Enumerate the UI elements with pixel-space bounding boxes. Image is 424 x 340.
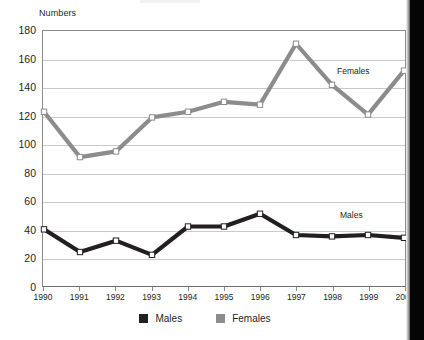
- x-tick: [152, 287, 153, 291]
- x-tick: [188, 287, 189, 291]
- x-tick: [369, 287, 370, 291]
- y-tick-label: 180: [4, 24, 36, 36]
- chart-canvas: Numbers 180160140120100806040200 1990199…: [0, 0, 424, 340]
- y-tick-label: 0: [4, 281, 36, 293]
- data-point-marker: [113, 149, 118, 154]
- data-point-marker: [365, 232, 370, 237]
- data-point-marker: [257, 102, 262, 107]
- x-tick: [260, 287, 261, 291]
- data-point-marker: [77, 249, 82, 254]
- x-tick: [79, 287, 80, 291]
- data-point-marker: [41, 227, 46, 232]
- page-gutter: [410, 0, 424, 340]
- legend-label: Males: [155, 313, 182, 324]
- x-tick-label: 1997: [287, 292, 306, 302]
- legend-item-males[interactable]: Males: [139, 313, 182, 324]
- y-tick-label: 140: [4, 81, 36, 93]
- data-point-marker: [329, 82, 334, 87]
- series-inline-label-males: Males: [340, 210, 363, 220]
- x-tick: [333, 287, 334, 291]
- x-tick-label: 1996: [251, 292, 270, 302]
- x-tick-label: 1993: [142, 292, 161, 302]
- x-tick: [296, 287, 297, 291]
- data-point-marker: [365, 112, 370, 117]
- x-tick: [224, 287, 225, 291]
- data-point-marker: [149, 252, 154, 257]
- x-axis-tick-labels: 1990199119921993199419951996199719981999…: [42, 292, 406, 306]
- x-tick-label: 1999: [359, 292, 378, 302]
- data-point-marker: [221, 224, 226, 229]
- x-tick-label: 1990: [34, 292, 53, 302]
- data-point-marker: [41, 109, 46, 114]
- data-point-marker: [257, 211, 262, 216]
- y-tick-label: 40: [4, 224, 36, 236]
- chart-legend: MalesFemales: [0, 313, 410, 324]
- data-point-marker: [113, 238, 118, 243]
- data-point-marker: [329, 234, 334, 239]
- y-tick-label: 120: [4, 110, 36, 122]
- series-inline-label-females: Females: [337, 66, 370, 76]
- y-axis-title: Numbers: [39, 8, 76, 18]
- data-point-marker: [293, 232, 298, 237]
- legend-swatch-icon: [216, 314, 225, 323]
- x-tick-label: 1994: [178, 292, 197, 302]
- y-tick-label: 60: [4, 195, 36, 207]
- y-tick-label: 20: [4, 252, 36, 264]
- legend-swatch-icon: [139, 314, 148, 323]
- x-tick-label: 1995: [215, 292, 234, 302]
- x-tick-label: 1992: [106, 292, 125, 302]
- y-axis-tick-labels: 180160140120100806040200: [0, 30, 36, 287]
- data-point-marker: [293, 41, 298, 46]
- y-tick-label: 100: [4, 138, 36, 150]
- data-point-marker: [221, 99, 226, 104]
- y-tick-label: 160: [4, 53, 36, 65]
- x-tick-label: 1991: [70, 292, 89, 302]
- x-tick: [43, 287, 44, 291]
- data-point-marker: [185, 109, 190, 114]
- page-top-artifact: [140, 0, 200, 3]
- data-point-marker: [149, 115, 154, 120]
- legend-label: Females: [232, 313, 270, 324]
- legend-item-females[interactable]: Females: [216, 313, 270, 324]
- data-point-marker: [77, 154, 82, 159]
- y-tick-label: 80: [4, 167, 36, 179]
- x-tick: [115, 287, 116, 291]
- data-point-marker: [185, 224, 190, 229]
- x-tick-label: 1998: [323, 292, 342, 302]
